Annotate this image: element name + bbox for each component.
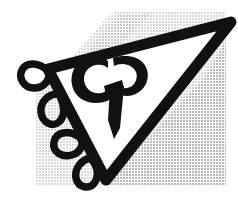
logo-artwork — [0, 0, 238, 197]
monogram-p-counter — [121, 70, 136, 84]
logo-image: Black line-art logo: a downward pointing… — [0, 0, 238, 197]
